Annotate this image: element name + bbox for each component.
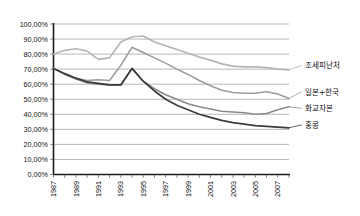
y-axis-tick-label: 90,00% bbox=[24, 35, 49, 44]
x-axis-tick-label: 2005 bbox=[251, 181, 260, 197]
series-label-3: 화교자본 bbox=[305, 104, 333, 113]
x-axis-tick-label: 1991 bbox=[94, 181, 103, 197]
axes-group bbox=[54, 23, 291, 175]
y-axis-tick-label: 50,00% bbox=[24, 95, 49, 104]
y-axis-tick-label: 80,00% bbox=[24, 50, 49, 59]
y-axis-tick-label: 60,00% bbox=[24, 80, 49, 89]
y-axis-tick-label: 20,00% bbox=[24, 140, 49, 149]
y-axis-tick-label: 0,00% bbox=[28, 170, 49, 179]
ytick-labels-group: 100,00%90,00%80,00%70,00%60,00%50,00%40,… bbox=[20, 20, 49, 180]
xtick-labels-group: 1987198919911993199519971999200120032005… bbox=[49, 181, 282, 197]
x-axis-tick-label: 1995 bbox=[139, 181, 148, 197]
data-series-line-2 bbox=[54, 47, 290, 98]
x-axis-tick-label: 2007 bbox=[273, 181, 282, 197]
data-series-line-3 bbox=[54, 68, 290, 114]
x-axis-tick-label: 1997 bbox=[161, 181, 170, 197]
x-axis-tick-label: 1993 bbox=[116, 181, 125, 197]
series-leader-line-3 bbox=[289, 107, 302, 109]
data-series-line-4 bbox=[54, 68, 290, 127]
y-axis-tick-label: 70,00% bbox=[24, 65, 49, 74]
x-axis-tick-label: 1989 bbox=[72, 181, 81, 197]
y-axis-tick-label: 40,00% bbox=[24, 110, 49, 119]
y-axis-tick-label: 10,00% bbox=[24, 155, 49, 164]
x-axis-tick-label: 1999 bbox=[184, 181, 193, 197]
series-label-1: 조세피난처 bbox=[305, 61, 340, 70]
y-axis-tick-label: 100,00% bbox=[20, 20, 49, 29]
line-chart: 100,00%90,00%80,00%70,00%60,00%50,00%40,… bbox=[0, 0, 360, 216]
series-leader-line-2 bbox=[289, 92, 302, 99]
series-leader-line-1 bbox=[289, 65, 302, 70]
series-label-4: 홍콩 bbox=[305, 120, 319, 130]
x-axis-tick-label: 2003 bbox=[229, 181, 238, 197]
gridlines-group bbox=[54, 24, 290, 159]
data-series-line-1 bbox=[54, 36, 290, 70]
x-axis-tick-label: 2001 bbox=[206, 181, 215, 197]
series-labels-group: 조세피난처일본+한국화교자본홍콩 bbox=[289, 61, 340, 129]
series-label-2: 일본+한국 bbox=[305, 88, 339, 97]
chart-container: 100,00%90,00%80,00%70,00%60,00%50,00%40,… bbox=[0, 0, 360, 216]
x-axis-tick-label: 1987 bbox=[49, 181, 58, 197]
y-axis-tick-label: 30,00% bbox=[24, 125, 49, 134]
series-leader-line-4 bbox=[289, 125, 302, 128]
